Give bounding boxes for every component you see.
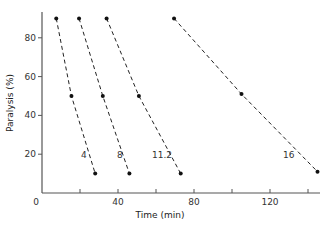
y-tick-label: 40 <box>25 110 37 120</box>
paralysis-time-chart: 0408012020406080 4811.216 Time (min) Par… <box>0 0 332 225</box>
data-point <box>105 16 109 20</box>
x-tick-label: 120 <box>261 197 278 207</box>
x-tick-label: 40 <box>112 197 124 207</box>
series-line <box>56 18 95 173</box>
series-16: 16 <box>172 16 319 173</box>
series-group: 4811.216 <box>54 16 319 175</box>
series-4: 4 <box>54 16 97 175</box>
data-point <box>69 94 73 98</box>
data-point <box>93 172 97 176</box>
series-label: 4 <box>81 150 87 160</box>
data-point <box>172 16 176 20</box>
axes: 0408012020406080 <box>25 12 320 207</box>
data-point <box>240 92 244 96</box>
data-point <box>137 94 141 98</box>
x-tick-label: 0 <box>33 197 39 207</box>
data-point <box>54 16 58 20</box>
y-tick-label: 80 <box>25 33 37 43</box>
x-axis-title: Time (min) <box>135 210 185 220</box>
series-line <box>174 18 317 171</box>
data-point <box>316 170 320 174</box>
y-axis-title: Paralysis (%) <box>5 74 15 132</box>
series-label: 11.2 <box>152 150 172 160</box>
data-point <box>101 94 105 98</box>
series-label: 16 <box>283 150 295 160</box>
data-point <box>127 172 131 176</box>
data-point <box>77 16 81 20</box>
y-tick-label: 20 <box>25 149 37 159</box>
x-tick-label: 80 <box>188 197 200 207</box>
series-label: 8 <box>117 150 123 160</box>
y-tick-label: 60 <box>25 72 37 82</box>
data-point <box>179 172 183 176</box>
